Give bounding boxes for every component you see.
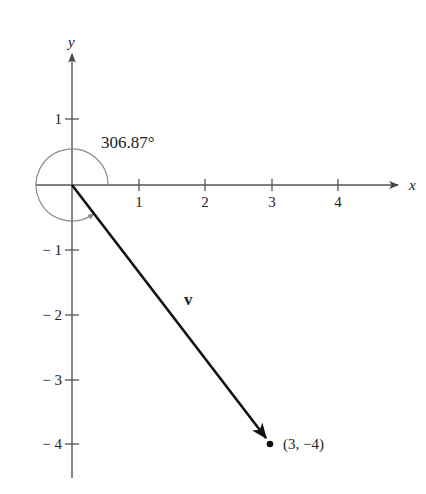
x-tick-label: 1 (135, 194, 143, 210)
y-tick-label: − 2 (42, 307, 62, 323)
x-axis: 1 2 3 4 x (36, 177, 416, 210)
vector-diagram: 1 2 3 4 x 1 − 1 − 2 − 3 − 4 y (0, 0, 426, 494)
x-tick-label: 4 (334, 194, 342, 210)
y-tick-label: − 4 (42, 436, 62, 452)
y-tick-label: − 3 (42, 372, 62, 388)
x-tick-label: 2 (201, 194, 209, 210)
vector-v: v (72, 185, 266, 438)
diagram-canvas: 1 2 3 4 x 1 − 1 − 2 − 3 − 4 y (0, 0, 426, 494)
y-axis-label: y (66, 34, 75, 50)
vector-arrow (72, 185, 266, 438)
point-label: (3, −4) (283, 436, 324, 453)
x-tick-label: 3 (268, 194, 276, 210)
y-tick-label: − 1 (42, 242, 62, 258)
terminal-point: (3, −4) (267, 436, 324, 453)
x-axis-label: x (408, 177, 416, 193)
y-axis: 1 − 1 − 2 − 3 − 4 y (42, 34, 79, 478)
y-tick-label: 1 (55, 111, 63, 127)
vector-label: v (184, 290, 193, 309)
angle-label: 306.87° (101, 133, 155, 152)
point-dot-icon (267, 441, 274, 448)
